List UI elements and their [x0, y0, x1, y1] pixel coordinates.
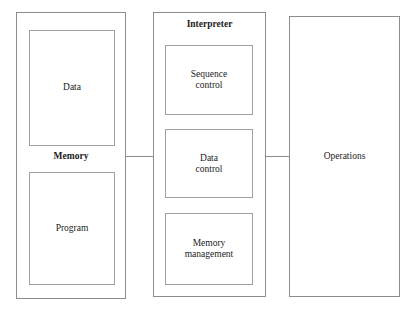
memory-group-label-text: Memory	[54, 151, 89, 162]
interpreter-group-label-text: Interpreter	[187, 19, 233, 30]
operations-group-label: Operations	[290, 151, 399, 162]
data-control-block-label: Data control	[166, 152, 252, 174]
program-block-box: Program	[29, 172, 115, 285]
memory-group-label: Memory	[16, 150, 126, 164]
program-block-label: Program	[30, 223, 114, 234]
memory-management-block-box: Memory management	[165, 213, 253, 285]
data-block-box: Data	[29, 30, 115, 146]
data-control-block-box: Data control	[165, 129, 253, 198]
sequence-control-block-label: Sequence control	[166, 69, 252, 91]
sequence-control-block-box: Sequence control	[165, 45, 253, 115]
interpreter-group-label: Interpreter	[153, 18, 266, 32]
operations-group-box: Operations	[289, 16, 400, 297]
connector-interpreter-operations	[266, 156, 290, 157]
architecture-diagram: Data Memory Program Interpreter Sequence…	[0, 0, 418, 315]
memory-management-block-label: Memory management	[166, 238, 252, 260]
data-block-label: Data	[30, 82, 114, 93]
connector-memory-interpreter	[126, 156, 154, 157]
